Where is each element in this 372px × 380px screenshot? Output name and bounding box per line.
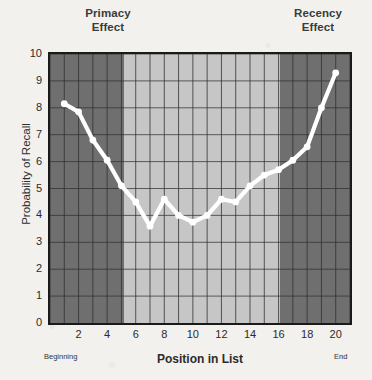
x-tick-14: 14 <box>236 328 264 340</box>
y-tick-10: 10 <box>6 47 42 59</box>
y-tick-9: 9 <box>6 74 42 86</box>
y-tick-5: 5 <box>6 182 42 194</box>
y-tick-0: 0 <box>6 316 42 328</box>
recency-effect-label: Recency Effect <box>272 6 364 34</box>
recency-effect-label-line1: Recency <box>272 6 364 20</box>
x-axis-title: Position in List <box>48 352 352 366</box>
primacy-effect-label-line2: Effect <box>60 20 156 34</box>
y-tick-4: 4 <box>6 208 42 220</box>
y-tick-7: 7 <box>6 128 42 140</box>
y-tick-6: 6 <box>6 155 42 167</box>
recall-curve-series <box>50 54 350 323</box>
y-tick-8: 8 <box>6 101 42 113</box>
y-tick-2: 2 <box>6 262 42 274</box>
y-tick-1: 1 <box>6 289 42 301</box>
x-axis-end-label: End <box>334 352 347 361</box>
x-tick-18: 18 <box>293 328 321 340</box>
x-tick-8: 8 <box>150 328 178 340</box>
x-tick-4: 4 <box>93 328 121 340</box>
primacy-effect-label-line1: Primacy <box>60 6 156 20</box>
serial-position-curve-figure: Primacy Effect Recency Effect Probabilit… <box>0 0 372 380</box>
x-tick-2: 2 <box>65 328 93 340</box>
x-tick-6: 6 <box>122 328 150 340</box>
x-tick-16: 16 <box>265 328 293 340</box>
primacy-effect-label: Primacy Effect <box>60 6 156 34</box>
x-tick-12: 12 <box>207 328 235 340</box>
y-tick-3: 3 <box>6 235 42 247</box>
x-tick-10: 10 <box>179 328 207 340</box>
x-tick-20: 20 <box>322 328 350 340</box>
plot-area <box>48 52 352 325</box>
recency-effect-label-line2: Effect <box>272 20 364 34</box>
